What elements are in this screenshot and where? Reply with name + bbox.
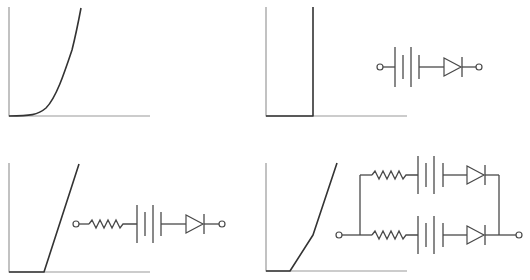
terminal-left bbox=[73, 221, 79, 227]
diode-icon bbox=[444, 57, 462, 77]
battery-icon bbox=[395, 47, 419, 87]
terminal-left bbox=[336, 232, 342, 238]
terminal-right bbox=[476, 64, 482, 70]
panel-b-graph bbox=[266, 7, 407, 116]
terminal-right bbox=[219, 221, 225, 227]
panel-b-circuit bbox=[377, 47, 482, 87]
diode-icon bbox=[467, 225, 485, 245]
y-axis bbox=[266, 7, 407, 116]
resistor-icon bbox=[89, 220, 137, 228]
exponential-curve bbox=[9, 8, 81, 116]
panel-a-graph bbox=[9, 7, 150, 116]
terminal-left bbox=[377, 64, 383, 70]
step-curve bbox=[266, 7, 313, 116]
bottom-branch bbox=[360, 216, 516, 254]
panel-d-circuit bbox=[336, 156, 522, 254]
resistor-icon bbox=[372, 231, 418, 239]
battery-icon bbox=[418, 216, 443, 254]
panel-d-graph bbox=[266, 163, 407, 271]
diode-models-figure bbox=[0, 0, 530, 280]
y-axis bbox=[9, 163, 150, 272]
diode-icon bbox=[467, 165, 485, 185]
piecewise-curve bbox=[266, 163, 337, 271]
panel-c-graph bbox=[9, 163, 150, 272]
offset-ramp-curve bbox=[9, 164, 79, 272]
top-branch bbox=[360, 156, 499, 194]
y-axis bbox=[9, 7, 150, 116]
battery-icon bbox=[137, 205, 161, 243]
resistor-icon bbox=[372, 171, 418, 179]
terminal-right bbox=[516, 232, 522, 238]
diode-icon bbox=[186, 214, 204, 234]
panel-c-circuit bbox=[73, 205, 225, 243]
battery-icon bbox=[418, 156, 443, 194]
y-axis bbox=[266, 163, 407, 271]
